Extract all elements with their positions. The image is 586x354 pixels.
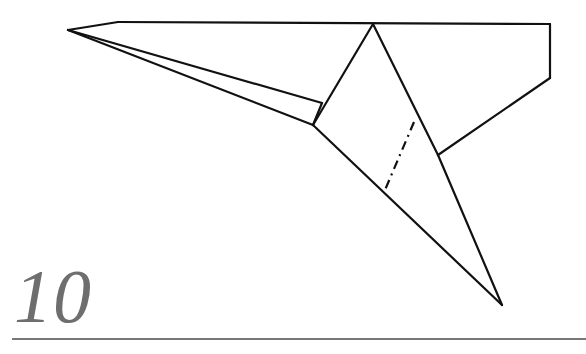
left-tip-to-upper-junction [68, 30, 322, 103]
left-tip-upper-edge [68, 22, 118, 30]
top-horizontal-edge [118, 22, 550, 24]
right-slant-to-notch [438, 78, 550, 155]
lower-junction-to-bottom-tip [313, 125, 502, 305]
bottom-horizontal-rule [12, 338, 586, 340]
fold-line-dash-dot [385, 122, 414, 190]
apex-to-lower-junction [313, 24, 373, 125]
notch-to-bottom-tip [438, 155, 502, 305]
step-number: 10 [14, 258, 92, 334]
left-tip-to-lower-junction [68, 30, 313, 125]
diagram-page: 10 [0, 0, 586, 354]
apex-to-notch [373, 24, 438, 155]
